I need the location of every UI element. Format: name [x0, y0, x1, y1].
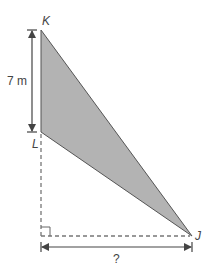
vertical-dimension-label: 7 m [7, 74, 27, 88]
triangle-klj [41, 30, 192, 236]
horizontal-dimension-label: ? [113, 252, 120, 266]
triangle-diagram: K L J 7 m ? [0, 0, 214, 273]
vertex-label-k: K [42, 14, 51, 28]
vertex-label-l: L [32, 137, 39, 151]
right-angle-marker [41, 227, 50, 236]
vertex-label-j: J [194, 229, 202, 243]
